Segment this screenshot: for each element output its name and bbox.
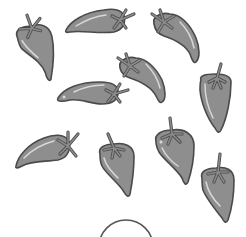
pepper-counting-scene: 10 [0, 0, 246, 237]
answer-circle[interactable] [0, 0, 246, 237]
